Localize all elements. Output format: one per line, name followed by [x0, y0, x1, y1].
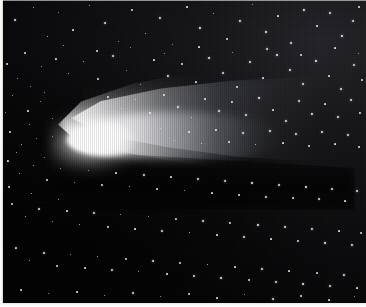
plate-bottom-margin [0, 303, 366, 307]
comet-nucleus [71, 130, 105, 150]
photographic-plate [3, 0, 366, 303]
comet-photograph [0, 0, 366, 307]
plate-top-edge [0, 0, 366, 1]
plate-left-margin [0, 0, 3, 307]
